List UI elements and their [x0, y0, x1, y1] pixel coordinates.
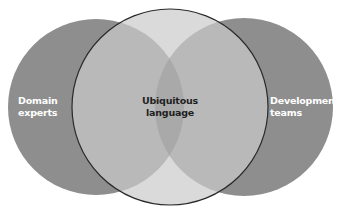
domain-experts-label-line2: experts	[18, 107, 58, 119]
ubiquitous-language-label-line2: language	[125, 107, 215, 119]
development-teams-label-line2: teams	[270, 107, 339, 119]
development-teams-label-line1: Development	[270, 95, 339, 107]
ubiquitous-language-label-line1: Ubiquitous	[125, 95, 215, 107]
development-teams-label: Development teams	[270, 95, 339, 119]
domain-experts-label-line1: Domain	[18, 95, 58, 107]
domain-experts-label: Domain experts	[18, 95, 58, 119]
ubiquitous-language-label: Ubiquitous language	[125, 95, 215, 119]
